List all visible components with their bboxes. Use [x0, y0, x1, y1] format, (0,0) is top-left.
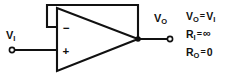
noninverting-input-sign: +: [63, 45, 70, 57]
equation-operator: =: [199, 47, 206, 57]
output-port-label-sub: O: [161, 17, 167, 26]
equation-rhs-main: 0: [207, 46, 213, 58]
equation-operator: =: [199, 11, 206, 21]
opamp-triangle: [57, 8, 138, 71]
equation-rhs-sub: I: [213, 15, 215, 24]
output-terminal-node: [167, 36, 172, 41]
input-terminal-node: [9, 47, 14, 52]
output-port-label: VO: [154, 13, 167, 24]
inverting-input-sign: −: [63, 22, 70, 34]
input-port-label: VI: [6, 30, 15, 41]
equation-block: VO=VI RI=∞ RO=0: [186, 11, 215, 58]
equation-row: VO=VI: [186, 11, 215, 22]
equation-lhs-main: R: [186, 28, 194, 40]
equation-lhs-sub: O: [193, 15, 199, 24]
equation-row: RO=0: [186, 47, 215, 58]
equation-lhs-main: V: [186, 10, 193, 22]
circuit-diagram-figure: − + VI VO VO=VI RI=∞ RO=0: [0, 0, 232, 76]
equation-row: RI=∞: [186, 29, 215, 40]
equation-rhs-main: ∞: [203, 27, 211, 39]
output-junction-dot: [135, 36, 141, 42]
equation-operator: =: [196, 29, 203, 39]
equation-lhs-main: R: [186, 46, 194, 58]
